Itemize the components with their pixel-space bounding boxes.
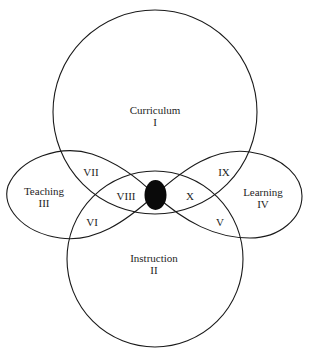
region-vii-label: VII (83, 166, 99, 178)
region-v-label: V (216, 216, 224, 228)
teaching-numeral: III (39, 197, 50, 209)
learning-label: Learning (243, 186, 283, 198)
curriculum-numeral: I (153, 116, 157, 128)
instruction-label: Instruction (130, 252, 178, 264)
region-ix-label: IX (218, 166, 230, 178)
region-vi-label: VI (86, 216, 98, 228)
instruction-numeral: II (150, 264, 158, 276)
curriculum-label: Curriculum (130, 104, 181, 116)
center-intersection-dot (145, 180, 167, 210)
region-x-label: X (186, 190, 194, 202)
learning-numeral: IV (257, 198, 269, 210)
region-viii-label: VIII (117, 190, 136, 202)
venn-diagram: Curriculum I Instruction II Teaching III… (0, 0, 311, 356)
teaching-label: Teaching (24, 185, 65, 197)
